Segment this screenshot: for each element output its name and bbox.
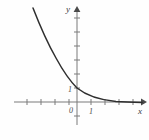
y-axis-label: y (65, 4, 70, 14)
plot-canvas: y x 0 1 1 (0, 0, 149, 140)
x-axis-tick-label-one: 1 (89, 107, 93, 116)
exponential-decay-curve (33, 8, 142, 102)
origin-label: 0 (69, 106, 73, 115)
x-axis-label: x (137, 106, 142, 116)
exponential-decay-figure: y x 0 1 1 (0, 0, 149, 140)
y-axis-arrow-icon (74, 6, 81, 12)
y-axis-tick-label-one: 1 (68, 85, 72, 94)
